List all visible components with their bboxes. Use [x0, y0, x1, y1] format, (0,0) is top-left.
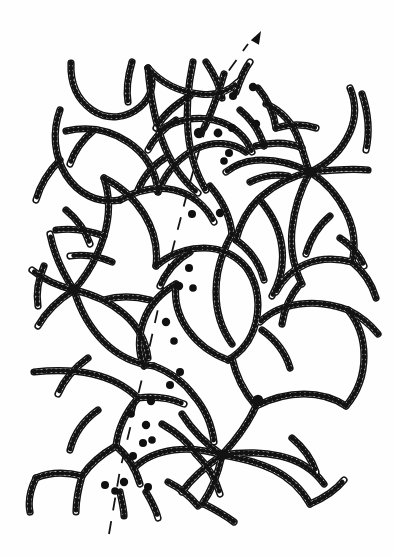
ruptured-chain-end-18	[127, 410, 135, 418]
ruptured-chain-end-26	[148, 436, 156, 444]
junction-core	[305, 167, 315, 177]
network-canvas	[0, 0, 393, 558]
ruptured-chain-end-9	[216, 209, 224, 217]
ruptured-chain-end-4	[228, 124, 236, 132]
crosslink-junction-bottom-center	[217, 450, 227, 460]
ruptured-chain-end-12	[189, 284, 197, 292]
junction-core	[253, 395, 263, 405]
ruptured-chain-end-3	[252, 120, 260, 128]
junction-core	[69, 285, 79, 295]
crosslink-junction-right-upper	[305, 167, 315, 177]
ruptured-chain-end-14	[170, 337, 178, 345]
ruptured-chain-end-2	[229, 92, 237, 100]
ruptured-chain-end-21	[129, 452, 137, 460]
ruptured-chain-end-15	[176, 368, 184, 376]
ruptured-chain-end-22	[120, 478, 128, 486]
ruptured-chain-end-25	[144, 483, 152, 491]
crosslink-junction-right-lower	[253, 395, 263, 405]
ruptured-chain-end-5	[214, 129, 223, 138]
junction-core	[217, 450, 227, 460]
polymer-network-figure	[0, 0, 393, 558]
ruptured-chain-end-13	[162, 318, 170, 326]
ruptured-chain-end-23	[101, 481, 109, 489]
ruptured-chain-end-7	[220, 157, 228, 165]
ruptured-chain-end-19	[142, 421, 150, 429]
ruptured-chain-end-24	[111, 487, 119, 495]
ruptured-chain-end-10	[185, 264, 193, 272]
ruptured-chain-end-16	[166, 381, 174, 389]
ruptured-chain-end-8	[188, 210, 196, 218]
ruptured-chain-end-1	[249, 83, 257, 91]
ruptured-chain-end-20	[139, 439, 147, 447]
ruptured-chain-end-6	[225, 149, 233, 157]
crosslink-junction-left	[69, 285, 79, 295]
ruptured-chain-end-11	[175, 282, 183, 290]
ruptured-chain-end-17	[147, 397, 155, 405]
